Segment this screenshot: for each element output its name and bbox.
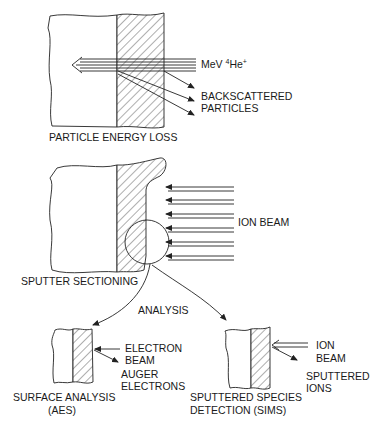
panel-surface-analysis: ELECTRON BEAM AUGER ELECTRONS SURFACE AN… bbox=[13, 329, 185, 416]
panel-title-surface-analysis-line2: (AES) bbox=[48, 404, 76, 416]
film-layer bbox=[251, 327, 270, 389]
ion-beam-label: ION BEAM bbox=[238, 216, 289, 228]
panel-title-sims-line1: SPUTTERED SPECIES bbox=[190, 391, 302, 403]
backscattered-label-line2: PARTICLES bbox=[201, 102, 258, 114]
panel-title-particle-energy-loss: PARTICLE ENERGY LOSS bbox=[49, 131, 177, 143]
substrate bbox=[52, 329, 73, 383]
panel-title-surface-analysis-line1: SURFACE ANALYSIS bbox=[13, 391, 116, 403]
sims-ion-beam-label-line2: BEAM bbox=[316, 352, 346, 364]
auger-electrons-label-line1: AUGER bbox=[121, 368, 159, 380]
backscattered-label-line1: BACKSCATTERED bbox=[201, 90, 293, 102]
film-layer bbox=[73, 329, 93, 383]
sputtered-film-layer bbox=[117, 158, 166, 272]
depth-profiling-diagram: MeV 4He+ BACKSCATTERED PARTICLES PARTICL… bbox=[0, 0, 384, 432]
panel-sims: ION BEAM SPUTTERED IONS SPUTTERED SPECIE… bbox=[190, 327, 370, 416]
ion-beam-arrows bbox=[166, 187, 234, 260]
sims-ion-beam-arrow bbox=[272, 340, 308, 350]
electron-beam-label-line1: ELECTRON bbox=[125, 342, 182, 354]
beam-label: MeV 4He+ bbox=[201, 58, 247, 70]
sputtered-ions-label-line1: SPUTTERED bbox=[306, 370, 370, 382]
substrate bbox=[50, 165, 117, 273]
panel-title-sims-line2: DETECTION (SIMS) bbox=[190, 404, 286, 416]
sims-ion-beam-label-line1: ION bbox=[316, 339, 335, 351]
film-layer bbox=[117, 13, 164, 128]
analysis-branch: ANALYSIS bbox=[93, 264, 226, 325]
panel-particle-energy-loss: MeV 4He+ BACKSCATTERED PARTICLES PARTICL… bbox=[48, 13, 293, 143]
sputtered-ions-label-line2: IONS bbox=[306, 382, 332, 394]
substrate bbox=[225, 329, 251, 389]
incident-beam bbox=[72, 57, 196, 73]
analysis-label: ANALYSIS bbox=[138, 304, 189, 316]
electron-beam-label-line2: BEAM bbox=[125, 354, 155, 366]
panel-title-sputter-sectioning: SPUTTER SECTIONING bbox=[21, 275, 138, 287]
auger-electrons-label-line2: ELECTRONS bbox=[121, 380, 185, 392]
